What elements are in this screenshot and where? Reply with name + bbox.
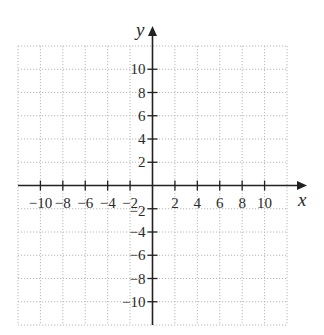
x-tick-label: −4 [100,195,116,211]
x-axis-label: x [297,189,307,210]
y-tick-label: −6 [130,247,146,263]
y-tick-label: −4 [130,224,146,240]
x-tick-label: 10 [257,195,272,211]
x-tick-label: 4 [194,195,202,211]
x-tick-label: 8 [238,195,246,211]
y-tick-label: 8 [138,85,146,101]
axes [18,26,307,325]
y-axis-label: y [134,19,145,40]
y-tick-label: −8 [130,271,146,287]
y-axis-arrow-icon [148,26,157,36]
y-tick-label: 6 [138,108,146,124]
y-tick-label: 4 [138,131,146,147]
y-tick-label: −10 [122,294,145,310]
x-tick-label: 6 [216,195,224,211]
x-tick-label: −6 [77,195,93,211]
y-tick-label: −2 [130,203,146,219]
x-tick-label: −10 [29,195,52,211]
x-tick-label: 2 [171,195,179,211]
coordinate-plane: −10−8−6−4−2246810−10−8−6−4−2246810 x y [0,0,324,335]
y-tick-label: 2 [138,154,146,170]
y-tick-label: 10 [131,61,146,77]
x-tick-label: −8 [55,195,71,211]
